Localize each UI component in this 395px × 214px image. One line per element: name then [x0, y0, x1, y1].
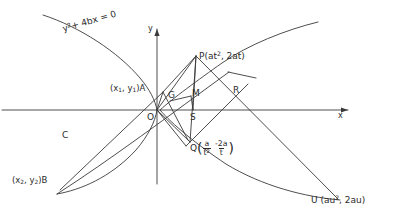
segment-A-B-chord [60, 92, 163, 190]
segment-A-P [163, 56, 196, 92]
point-label-S: S [190, 113, 196, 122]
point-label-U: U (au2, 2au) [311, 195, 365, 205]
left-parabola [43, 15, 157, 194]
point-R-text: R [233, 85, 239, 95]
point-label-M: M [192, 89, 200, 98]
point-Q-text: Q [190, 144, 197, 153]
point-label-A: (x1, y1)A [110, 84, 145, 94]
point-Q-num2: -2a [214, 140, 228, 148]
point-label-B: (x2, y2)B [12, 176, 47, 186]
point-Q-den1-exp: 2 [207, 148, 210, 154]
point-A-text: A [139, 83, 145, 93]
point-Q-den2: t [219, 148, 224, 157]
point-B-comma: , y [24, 175, 34, 185]
point-P-rest: , 2at) [221, 51, 245, 61]
segment-upper-right-tail [228, 72, 256, 78]
point-Q-num1: a [203, 140, 210, 148]
x-axis-label-text: x [338, 111, 343, 120]
point-label-C: C [62, 131, 68, 140]
point-M-text: M [192, 88, 200, 98]
ordinate-P-S [193, 56, 196, 110]
point-Q-close: ) [228, 141, 233, 155]
point-G-text: G [168, 90, 175, 100]
segment-O-Q [157, 110, 190, 142]
point-U-rest: , 2au) [339, 195, 365, 205]
geometry-diagram: y2+ 4bx = 0 y x O (x1, y1)A (x2, y2)B C … [0, 0, 395, 214]
line-P-R-U [196, 56, 338, 199]
point-B-text: B [41, 175, 47, 185]
point-C-text: C [62, 130, 68, 140]
point-O-text: O [147, 112, 154, 122]
point-Q-den1: t2 [203, 148, 211, 157]
point-Q-fraction-y: -2a t [214, 140, 228, 157]
point-label-Q: Q( a t2 -2a t ) [190, 140, 234, 157]
point-U-text: U (au [311, 195, 335, 205]
point-label-G: G [168, 91, 175, 100]
point-label-O: O [147, 113, 154, 122]
y-axis-arrowhead [154, 29, 159, 36]
x-axis-label: x [338, 112, 343, 120]
point-S-text: S [190, 112, 196, 122]
y-axis-label-text: y [148, 24, 153, 33]
point-label-R: R [233, 86, 239, 95]
diagram-canvas [0, 0, 395, 214]
point-A-comma: , y [122, 83, 132, 93]
point-Q-fraction-x: a t2 [203, 140, 211, 157]
segment-O-P [157, 56, 196, 110]
point-label-P: P(at2, 2at) [199, 51, 245, 61]
y-axis-label: y [148, 25, 153, 33]
point-P-text: P(at [199, 51, 217, 61]
